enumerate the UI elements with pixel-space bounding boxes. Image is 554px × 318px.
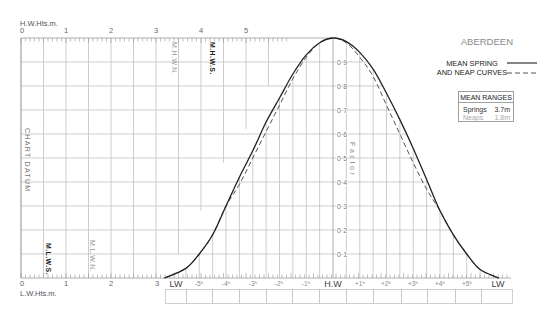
factor-tick: 0·6 — [337, 131, 347, 138]
time-entry-cell — [320, 290, 347, 304]
time-entry-cell — [482, 290, 513, 304]
hw-height-tick: 5 — [244, 26, 248, 35]
factor-tick: 0·8 — [337, 83, 347, 90]
time-tick: -1ʰ — [302, 280, 311, 287]
neaps-label: Neaps — [463, 114, 484, 122]
time-entry-cell — [240, 290, 267, 304]
factor-tick: 0·3 — [337, 203, 347, 210]
hw-height-tick: 3 — [154, 26, 158, 35]
time-entry-cell — [166, 290, 187, 304]
mhwn-label: M.H.W.N. — [171, 42, 178, 75]
time-tick: -5ʰ — [195, 280, 204, 287]
hw-height-tick: 4 — [199, 26, 203, 35]
mhws-label: M.H.W.S. — [209, 42, 216, 75]
time-entry-cell — [347, 290, 374, 304]
time-tick-lw-start: LW — [170, 279, 183, 289]
lw-height-tick: 0 — [20, 279, 24, 288]
time-tick: -4ʰ — [222, 280, 231, 287]
time-tick: +1ʰ — [355, 280, 365, 287]
mlwn-label: M.L.W.N. — [89, 240, 96, 272]
lw-height-tick: 2 — [109, 279, 113, 288]
time-entry-cell — [267, 290, 293, 304]
time-entry-cell — [293, 290, 320, 304]
hw-heights-label: H.W.Hts.m. — [20, 19, 58, 28]
time-tick-hw: H.W — [324, 279, 342, 289]
time-tick: +3ʰ — [408, 280, 418, 287]
time-entry-cell — [456, 290, 482, 304]
time-tick: -2ʰ — [275, 280, 284, 287]
tidal-curve-diagram: H.W.Hts.m. 0 1 2 3 4 5 0 1 2 3 L.W.Hts.m… — [0, 0, 554, 318]
time-entry-cell — [428, 290, 456, 304]
factor-tick: 0·9 — [337, 59, 347, 66]
mean-ranges-title: MEAN RANGES — [460, 94, 512, 101]
factor-tick: 0·2 — [337, 227, 347, 234]
time-tick: -3ʰ — [249, 280, 258, 287]
time-entry-cell — [187, 290, 213, 304]
hw-height-tick: 1 — [64, 26, 68, 35]
factor-tick: 0·1 — [337, 251, 347, 258]
factor-axis-label: Factor — [349, 142, 356, 177]
time-entry-table — [166, 290, 513, 304]
chart-datum-label: CHART DATUM — [24, 128, 31, 192]
lw-heights-label: L.W.Hts.m. — [20, 289, 57, 298]
port-title: ABERDEEN — [461, 36, 513, 47]
hw-height-tick: 0 — [20, 26, 24, 35]
hw-height-tick: 2 — [109, 26, 113, 35]
time-tick-lw-end: LW — [492, 279, 505, 289]
time-entry-cell — [213, 290, 240, 304]
time-entry-cell — [374, 290, 402, 304]
mlws-label: M.L.W.S. — [45, 243, 52, 275]
lw-height-tick: 3 — [155, 279, 159, 288]
time-entry-cell — [402, 290, 428, 304]
time-tick: +5ʰ — [462, 280, 472, 287]
factor-tick: 0·7 — [337, 107, 347, 114]
factor-tick: 0·4 — [337, 179, 347, 186]
legend-line-2: AND NEAP CURVES — [437, 68, 507, 77]
time-tick: +2ʰ — [381, 280, 391, 287]
factor-tick: 0·5 — [337, 155, 347, 162]
lw-height-tick: 1 — [64, 279, 68, 288]
mean-ranges-box: MEAN RANGES Springs 3.7m Neaps 1.8m — [459, 92, 514, 122]
legend: MEAN SPRING AND NEAP CURVES — [437, 59, 537, 77]
springs-value: 3.7m — [494, 106, 510, 113]
time-tick: +4ʰ — [435, 280, 445, 287]
neaps-value: 1.8m — [494, 114, 510, 121]
